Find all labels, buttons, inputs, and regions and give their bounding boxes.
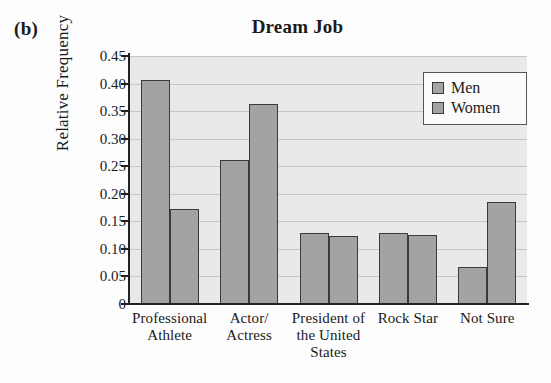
x-axis-category-label-line: Actress [205, 327, 292, 344]
bar-women-3 [408, 235, 437, 304]
y-axis-line [128, 53, 130, 305]
bar-men-4 [458, 267, 487, 304]
y-axis-tick-mark [121, 83, 129, 85]
gridline [130, 139, 527, 140]
x-axis-category-label-line: Professional [126, 310, 213, 327]
gridline [130, 56, 527, 57]
gridline [130, 194, 527, 195]
x-axis-category-label-line: Not Sure [444, 310, 531, 327]
x-axis-category-label-line: the United [285, 327, 372, 344]
y-axis-tick-labels: 0.450.400.350.300.250.200.150.100.050 [84, 56, 126, 304]
y-axis-tick-mark [121, 303, 129, 305]
y-axis-tick-label: 0.40 [84, 76, 126, 91]
y-axis-tick-label: 0 [84, 297, 126, 312]
legend-label-women: Women [451, 100, 500, 116]
x-axis-category-label-line: Actor/ [205, 310, 292, 327]
chart-legend: Men Women [423, 72, 527, 125]
y-axis-tick-mark [121, 248, 129, 250]
legend-item-men: Men [432, 78, 518, 98]
y-axis-title: Relative Frequency [52, 0, 74, 192]
bar-women-1 [249, 104, 278, 304]
bar-women-4 [487, 202, 516, 304]
y-axis-tick-mark [121, 220, 129, 222]
legend-swatch-men-icon [432, 82, 444, 94]
x-axis-category-label: Rock Star [364, 310, 451, 327]
x-axis-line [121, 303, 529, 305]
bar-men-2 [300, 233, 329, 304]
x-axis-category-label: ProfessionalAthlete [126, 310, 213, 344]
x-axis-category-label-line: Rock Star [364, 310, 451, 327]
bar-women-2 [329, 236, 358, 304]
bar-men-0 [141, 80, 170, 304]
y-axis-tick-label: 0.05 [84, 269, 126, 284]
gridline [130, 166, 527, 167]
legend-label-men: Men [451, 80, 480, 96]
x-axis-category-label-line: States [285, 344, 372, 361]
y-axis-tick-label: 0.15 [84, 214, 126, 229]
chart-title: Dream Job [0, 16, 551, 38]
bar-women-0 [170, 209, 199, 304]
bar-men-1 [220, 160, 249, 304]
y-axis-tick-mark [121, 165, 129, 167]
y-axis-tick-mark [121, 110, 129, 112]
y-axis-tick-label: 0.25 [84, 159, 126, 174]
y-axis-tick-mark [121, 275, 129, 277]
legend-item-women: Women [432, 98, 518, 118]
x-axis-category-label-line: Athlete [126, 327, 213, 344]
bar-men-3 [379, 233, 408, 304]
chart-figure: (b) Dream Job Relative Frequency 0.450.4… [0, 0, 551, 383]
x-axis-category-label: Actor/Actress [205, 310, 292, 344]
y-axis-tick-label: 0.35 [84, 104, 126, 119]
x-axis-category-label: Not Sure [444, 310, 531, 327]
y-axis-tick-mark [121, 138, 129, 140]
y-axis-tick-mark [121, 193, 129, 195]
y-axis-tick-mark [121, 55, 129, 57]
legend-swatch-women-icon [432, 102, 444, 114]
y-axis-tick-label: 0.10 [84, 241, 126, 256]
x-axis-category-label: President ofthe UnitedStates [285, 310, 372, 361]
x-axis-category-labels: ProfessionalAthleteActor/ActressPresiden… [130, 310, 527, 382]
x-axis-category-label-line: President of [285, 310, 372, 327]
y-axis-tick-label: 0.20 [84, 186, 126, 201]
y-axis-tick-label: 0.45 [84, 49, 126, 64]
y-axis-tick-label: 0.30 [84, 131, 126, 146]
